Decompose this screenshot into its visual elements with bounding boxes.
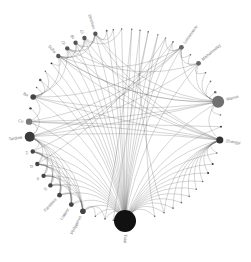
edge-Zhangyi-n_b2	[164, 140, 220, 213]
node-label-bo: Bo	[23, 91, 30, 97]
node-n_r3[interactable]	[214, 91, 216, 93]
node-n_t6[interactable]	[131, 28, 133, 30]
edge-Bo-Marius	[33, 97, 218, 108]
node-lomonosov[interactable]	[179, 45, 184, 50]
node-n_b6[interactable]	[196, 188, 198, 190]
node-n_bl3[interactable]	[113, 219, 115, 221]
edge-Marius-Mikhailovsky	[196, 63, 218, 101]
node-label-z: Z	[25, 150, 29, 156]
node-label-sofia: Sofia	[47, 44, 58, 55]
node-liabiez[interactable]	[69, 202, 74, 207]
node-taiqi[interactable]	[114, 210, 136, 232]
node-ci[interactable]	[82, 36, 86, 40]
node-n_t5[interactable]	[139, 29, 141, 31]
node-n_r6[interactable]	[190, 54, 192, 56]
node-f[interactable]	[41, 174, 45, 178]
node-label-tardine: Tardine	[8, 135, 23, 142]
node-n_t2[interactable]	[165, 37, 167, 39]
node-zhangyi[interactable]	[216, 137, 223, 144]
edge-n_t4-n_bl3	[113, 32, 148, 220]
node-label-bi: Bi	[69, 34, 75, 40]
node-n_l3[interactable]	[39, 79, 42, 82]
node-n_b5[interactable]	[188, 196, 190, 198]
node-label-zhangyi: Zhangyi	[225, 138, 241, 145]
edge-Taiqi-n_b9	[125, 164, 213, 221]
node-n_b8[interactable]	[207, 172, 209, 174]
node-n_b1[interactable]	[154, 216, 156, 218]
node-n_l1[interactable]	[51, 62, 53, 64]
node-label-d: D	[29, 163, 34, 169]
edge-Taiqi-F	[44, 176, 125, 221]
node-label-marius: Marius	[226, 94, 239, 102]
node-n_bl2[interactable]	[104, 218, 106, 220]
node-n_l2[interactable]	[45, 71, 47, 73]
node-bo[interactable]	[30, 94, 36, 100]
edge-Zhangyi-n_b9	[207, 140, 219, 164]
edge-Ci-n_t7	[84, 29, 121, 44]
node-label-s: S	[43, 186, 48, 192]
node-n_t7[interactable]	[121, 28, 123, 30]
node-dimitrov[interactable]	[93, 32, 97, 36]
node-label-oi: Oi	[60, 39, 67, 45]
edge-Sofia-Bo	[33, 56, 59, 97]
node-label-lomonosov: Lomonosov	[182, 23, 199, 44]
network-diagram: TaiqiZhangyiMariusMikhailovskyLomonosovD…	[0, 0, 251, 262]
node-n_b7[interactable]	[202, 181, 204, 183]
node-n_l5[interactable]	[29, 107, 31, 109]
node-n_t1[interactable]	[172, 41, 174, 43]
node-n_t3[interactable]	[157, 34, 159, 36]
node-label-dimitrov: Dimitrov	[87, 14, 97, 31]
edge-Z-Philippines	[33, 151, 83, 211]
node-philippines[interactable]	[80, 208, 86, 214]
node-n_r5[interactable]	[205, 72, 207, 74]
edge-Taiqi-n_l2	[45, 71, 125, 221]
node-sofia[interactable]	[56, 54, 60, 58]
node-label-mikhailovsky: Mikhailovsky	[200, 42, 222, 62]
node-n_r1[interactable]	[220, 126, 222, 128]
node-label-cu: Cu	[18, 118, 24, 123]
edge-Cu-n_r1	[29, 122, 221, 127]
node-label-ci: Ci	[79, 29, 85, 35]
node-fantaisie[interactable]	[57, 193, 62, 198]
edge-Zhangyi-n_b3	[173, 140, 220, 208]
node-mikhailovsky[interactable]	[196, 61, 201, 66]
node-n_bl1[interactable]	[95, 216, 97, 218]
node-n_b10[interactable]	[216, 152, 218, 154]
node-n_b3[interactable]	[172, 207, 174, 209]
edge-Bo-n_l2	[33, 71, 49, 97]
node-tardine[interactable]	[25, 132, 35, 142]
node-cu[interactable]	[26, 118, 32, 124]
node-d[interactable]	[35, 162, 39, 166]
edge-Taiqi-n_b10	[125, 153, 217, 221]
edge-Zhangyi-n_b8	[204, 140, 220, 173]
node-n_t8[interactable]	[113, 29, 115, 31]
node-label-fantaisie: Fantaisie	[42, 196, 58, 212]
edge-Taiqi-n_l1	[51, 63, 125, 221]
node-label-f: F	[36, 176, 41, 182]
node-n_b9[interactable]	[212, 163, 214, 165]
node-n_b2[interactable]	[163, 212, 165, 214]
node-n_r4[interactable]	[210, 81, 212, 83]
node-bi[interactable]	[73, 41, 77, 45]
edge-Mikhailovsky-Lomonosov	[181, 47, 199, 64]
node-marius[interactable]	[212, 96, 224, 108]
node-label-philippines: Philippines	[69, 215, 82, 235]
node-n_t4[interactable]	[147, 31, 149, 33]
node-label-taiqi: Taiqi	[123, 235, 128, 244]
node-n_l4[interactable]	[36, 87, 38, 89]
node-s[interactable]	[48, 183, 52, 187]
node-z[interactable]	[31, 149, 35, 153]
edge-Taiqi-Zhangyi	[125, 140, 220, 221]
edge-Taiqi-n_b8	[125, 173, 208, 221]
edge-D-Fantaisie	[37, 164, 60, 195]
edge-Marius-Lomonosov	[181, 47, 218, 101]
node-n_b4[interactable]	[181, 202, 183, 204]
circular-network-graph: TaiqiZhangyiMariusMikhailovskyLomonosovD…	[0, 0, 251, 262]
node-label-liabiez: Liabiez	[59, 207, 71, 221]
node-oi[interactable]	[65, 46, 69, 50]
edge-Tardine-Liabiez	[30, 137, 72, 205]
node-n_t9[interactable]	[106, 30, 108, 32]
node-n_r2[interactable]	[220, 114, 222, 116]
